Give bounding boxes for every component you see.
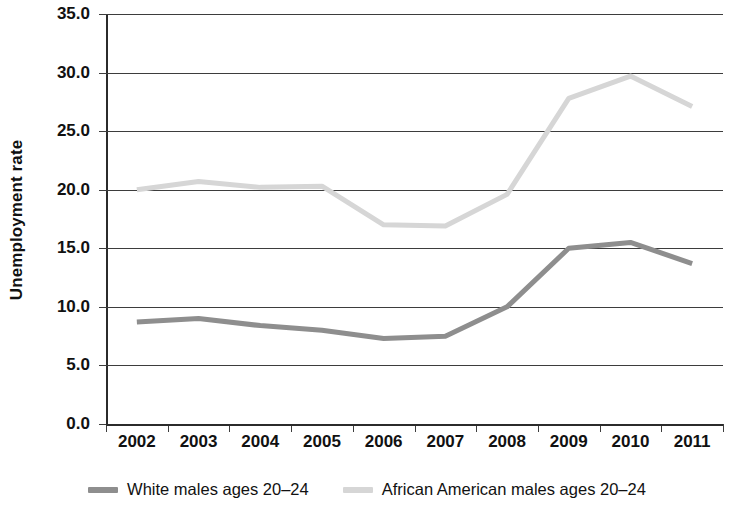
series-lines [106,14,723,424]
line-chart-figure: Unemployment rate 0.05.010.015.020.025.0… [0,0,734,505]
x-axis-tick-label: 2002 [118,432,156,452]
x-axis-tick-label: 2008 [488,432,526,452]
legend-item-african-american-males[interactable]: African American males ages 20–24 [343,480,646,499]
y-axis-tick-label: 0.0 [66,414,90,434]
legend-item-label: African American males ages 20–24 [382,480,646,499]
y-axis-tick-mark [99,131,106,132]
y-axis-tick-mark [99,73,106,74]
y-axis-tick-label: 35.0 [57,4,90,24]
y-axis-tick-mark [99,248,106,249]
y-axis-tick-mark [99,365,106,366]
series-line-2 [137,76,692,226]
legend-item-label: White males ages 20–24 [127,480,309,499]
series-line-1 [137,242,692,338]
y-axis-tick-label: 5.0 [66,355,90,375]
legend-item-white-males[interactable]: White males ages 20–24 [88,480,309,499]
x-axis-tick-label: 2011 [674,432,711,452]
x-axis-tick-label: 2004 [241,432,279,452]
y-axis-tick-labels: 0.05.010.015.020.025.030.035.0 [34,0,98,440]
y-axis-tick-mark [99,424,106,425]
x-axis-tick-label: 2003 [180,432,218,452]
x-axis-line [106,424,723,426]
y-axis-tick-label: 10.0 [57,297,90,317]
x-axis-tick-label: 2009 [550,432,588,452]
x-axis-tick-label: 2006 [365,432,403,452]
plot-area [106,14,723,424]
y-axis-tick-mark [99,307,106,308]
x-axis-tick-labels: 2002200320042005200620072008200920102011 [106,432,723,462]
y-axis-tick-label: 25.0 [57,121,90,141]
chart-legend: White males ages 20–24 African American … [0,474,734,505]
y-axis-tick-mark [99,14,106,15]
x-axis-tick-label: 2007 [426,432,464,452]
x-axis-tick-label: 2010 [612,432,650,452]
y-axis-tick-label: 15.0 [57,238,90,258]
y-axis-title: Unemployment rate [0,0,34,440]
legend-swatch-icon [88,487,118,493]
legend-swatch-icon [343,487,373,493]
y-axis-title-label: Unemployment rate [7,140,27,300]
x-axis-tick-mark [723,424,724,432]
y-axis-tick-label: 20.0 [57,180,90,200]
y-axis-tick-label: 30.0 [57,63,90,83]
y-axis-tick-mark [99,190,106,191]
x-axis-tick-label: 2005 [303,432,341,452]
